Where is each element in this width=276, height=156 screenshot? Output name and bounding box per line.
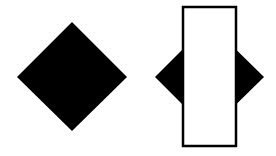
diagram-canvas (0, 0, 276, 156)
white-rectangle (183, 7, 236, 146)
